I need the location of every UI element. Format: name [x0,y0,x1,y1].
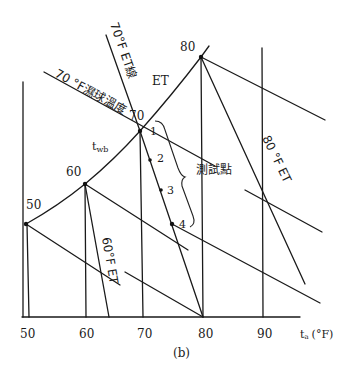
et-region-label: ET [152,74,169,88]
dry-bulb-50-line [27,224,29,317]
x-axis-ticks: 50 60 70 80 90 [20,327,272,341]
curve-label-50: 50 [26,198,41,212]
x-axis-label: ta(°F) [300,328,333,341]
curve-point-70 [138,129,142,133]
x-tick-80: 80 [198,327,213,341]
twb-label: twb [92,140,108,154]
test-point-label-2: 2 [157,152,164,165]
saturation-curve [26,46,209,224]
psychrometric-et-diagram: 50 60 70 80 twb 1 2 3 4 測試點 ET 70°F ET線 … [0,0,358,380]
x-tick-60: 60 [79,327,94,341]
wet-bulb-80-line [201,57,325,120]
curve-label-60: 60 [66,165,81,179]
x-tick-70: 70 [137,327,152,341]
et-70-line-label: 70°F ET線 [107,20,140,81]
curve-point-60 [83,182,87,186]
curve-label-80: 80 [180,40,195,54]
wet-bulb-right-line [245,190,322,232]
dry-bulb-60-line [85,184,86,317]
dry-bulb-70-line [140,131,143,317]
test-point-label-1: 1 [150,125,157,138]
wet-bulb-70-label: 70 °F濕球溫度 [53,66,130,118]
test-point-2 [148,158,152,162]
wet-bulb-lower-line-b [125,272,203,317]
test-point-3 [159,188,163,192]
et-80-line-label: 80 °F ET [259,133,294,185]
wet-bulb-lines [26,57,325,317]
dry-bulb-verticals [27,48,263,317]
state-points [24,55,203,226]
dry-bulb-80-line [201,57,203,317]
x-tick-50: 50 [20,327,35,341]
curve-label-70: 70 [129,109,144,123]
curve-point-80 [199,55,203,59]
test-point-label-3: 3 [167,184,174,197]
test-point-label-4: 4 [179,218,186,231]
curve-point-50 [24,222,28,226]
test-point-4 [170,222,174,226]
x-tick-90: 90 [257,327,272,341]
test-points-label: 測試點 [196,162,232,177]
figure-caption: (b) [173,346,190,360]
